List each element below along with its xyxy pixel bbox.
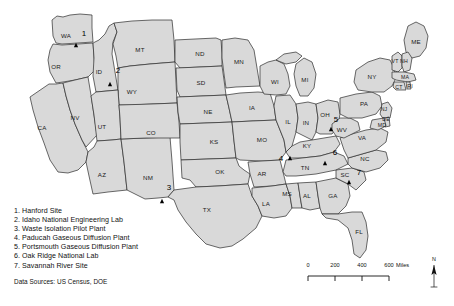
state-label-VT: VT (391, 58, 399, 64)
state-shape-MT (113, 20, 175, 68)
state-shape-TX (168, 184, 262, 248)
site-triangle-3 (160, 199, 164, 204)
state-label-MT: MT (135, 46, 144, 53)
state-label-SD: SD (197, 79, 206, 86)
state-label-IL: IL (285, 118, 291, 125)
state-label-MN: MN (234, 58, 244, 65)
state-label-NH: NH (400, 58, 408, 64)
state-label-IA: IA (249, 104, 256, 111)
scale-tick-label-2: 400 (357, 262, 366, 268)
site-number-3: 3 (167, 183, 172, 192)
state-label-LA: LA (262, 200, 271, 207)
north-arrow-glyph (424, 263, 444, 291)
north-arrow-label: N (432, 256, 436, 262)
legend-item-4: 4. Paducah Gaseous Diffusion Plant (14, 234, 138, 243)
state-label-NV: NV (71, 114, 81, 121)
scale-bar: 0 200 400 600 Miles (300, 262, 400, 288)
state-label-CO: CO (146, 129, 156, 136)
site-number-2: 2 (116, 66, 121, 75)
north-arrow: N (424, 256, 444, 292)
state-label-PA: PA (360, 100, 369, 107)
state-shape-WY (118, 62, 177, 105)
state-label-UT: UT (98, 123, 107, 130)
state-label-WI: WI (271, 78, 279, 85)
scale-tick-label-0: 0 (306, 262, 309, 268)
scale-tick-label-3: 600 (384, 262, 393, 268)
site-number-4: 4 (279, 154, 284, 163)
state-label-NY: NY (368, 73, 377, 80)
state-label-ID: ID (96, 68, 103, 75)
state-label-FL: FL (355, 228, 363, 235)
state-label-MD: MD (378, 122, 387, 128)
state-label-OR: OR (51, 63, 61, 70)
site-number-7: 7 (357, 168, 362, 177)
scale-bar-numbers: 0 200 400 600 Miles (300, 262, 400, 272)
site-number-1: 1 (82, 29, 87, 38)
state-label-IN: IN (303, 119, 310, 126)
state-label-MI: MI (301, 76, 308, 83)
legend-item-6: 6. Oak Ridge National Lab (14, 252, 138, 261)
state-label-NE: NE (204, 108, 213, 115)
site-number-5: 5 (334, 115, 339, 124)
site-number-6: 6 (333, 148, 338, 157)
state-label-NC: NC (360, 155, 370, 162)
state-label-OH: OH (320, 111, 330, 118)
state-label-TX: TX (203, 206, 211, 213)
state-label-AZ: AZ (98, 171, 106, 178)
scale-bar-unit: Miles (396, 262, 409, 268)
state-label-GA: GA (328, 192, 338, 199)
state-label-NM: NM (143, 174, 153, 181)
state-label-MA: MA (401, 74, 410, 80)
state-label-VA: VA (358, 134, 367, 141)
state-label-CT: CT (395, 84, 403, 90)
site-legend: 1. Hanford Site 2. Idaho National Engine… (14, 207, 138, 271)
state-label-NJ: NJ (381, 106, 388, 112)
legend-item-5: 5. Portsmouth Gaseous Diffusion Plant (14, 243, 138, 252)
state-shape-AR (248, 160, 286, 187)
state-label-CA: CA (38, 124, 48, 131)
legend-item-3: 3. Waste Isolation Pilot Plant (14, 225, 138, 234)
state-shape-FL (322, 212, 368, 258)
state-label-MO: MO (257, 136, 267, 143)
us-doe-sites-map: WAORCANVIDMTWYUTAZNMCONDSDNEKSOKTXMNIAMO… (0, 0, 454, 306)
state-shape-KS (180, 122, 236, 160)
legend-item-1: 1. Hanford Site (14, 207, 138, 216)
state-label-WY: WY (127, 88, 137, 95)
legend-item-2: 2. Idaho National Engineering Lab (14, 216, 138, 225)
state-label-RI: RI (407, 83, 413, 89)
legend-item-7: 7. Savannah River Site (14, 262, 138, 271)
state-shape-ID (93, 23, 118, 92)
state-label-WA: WA (61, 32, 72, 39)
state-label-ME: ME (411, 38, 421, 45)
state-shape-AZ (86, 139, 127, 194)
state-label-ND: ND (195, 50, 205, 57)
state-label-KS: KS (210, 138, 219, 145)
scale-bar-ruler (300, 272, 400, 284)
state-label-SC: SC (341, 171, 350, 178)
state-label-AR: AR (258, 170, 267, 177)
state-label-KY: KY (303, 142, 312, 149)
state-label-AL: AL (303, 192, 311, 199)
scale-tick-label-1: 200 (330, 262, 339, 268)
data-sources-note: Data Sources: US Census, DOE (14, 278, 107, 285)
state-shape-WA (52, 14, 93, 44)
state-label-MS: MS (282, 190, 292, 197)
state-label-TN: TN (301, 164, 310, 171)
state-label-OK: OK (215, 168, 225, 175)
state-label-WV: WV (337, 126, 348, 133)
